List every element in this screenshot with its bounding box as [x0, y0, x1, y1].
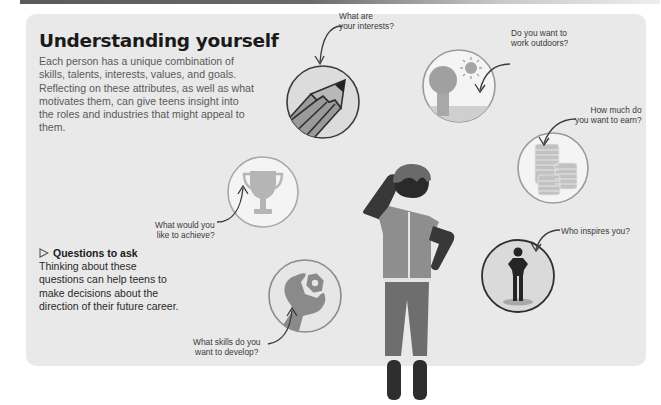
question-interests: What are your interests?: [339, 11, 394, 31]
question-line: you want to earn?: [575, 115, 642, 125]
question-line: want to develop?: [193, 347, 261, 357]
question-line: like to achieve?: [155, 230, 215, 240]
questions-to-ask-heading: Questions to ask: [39, 247, 138, 259]
question-line: Who inspires you?: [561, 226, 630, 236]
arrow-outdoors-icon: [472, 60, 512, 100]
question-line: Do you want to: [511, 28, 568, 38]
question-skills: What skills do you want to develop?: [193, 337, 261, 357]
question-earn: How much do you want to earn?: [575, 105, 642, 125]
question-line: What would you: [155, 220, 215, 230]
thinking-person-figure-icon: [355, 160, 465, 405]
page-title: Understanding yourself: [39, 30, 278, 51]
arrow-skills-icon: [266, 296, 302, 346]
questions-heading-label: Questions to ask: [53, 247, 138, 259]
question-inspires: Who inspires you?: [561, 226, 630, 236]
arrow-inspires-icon: [528, 225, 562, 259]
triangle-right-outline-icon: [39, 248, 49, 258]
question-line: your interests?: [339, 21, 394, 31]
question-line: How much do: [575, 105, 642, 115]
questions-body: Thinking about these questions can help …: [39, 260, 179, 313]
intro-paragraph: Each person has a unique combination of …: [39, 55, 254, 135]
arrow-earn-icon: [532, 115, 578, 149]
arrow-interests-icon: [310, 20, 346, 72]
question-outdoors: Do you want to work outdoors?: [511, 28, 568, 48]
question-achieve: What would you like to achieve?: [155, 220, 215, 240]
question-line: work outdoors?: [511, 38, 568, 48]
top-rule: [20, 0, 660, 4]
arrow-achieve-icon: [215, 178, 251, 226]
question-line: What skills do you: [193, 337, 261, 347]
question-line: What are: [339, 11, 394, 21]
pencil-icon: [285, 64, 361, 140]
